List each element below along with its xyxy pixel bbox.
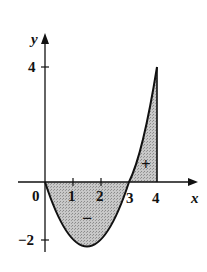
x-axis-label: x [190, 190, 199, 206]
x-tick-label-1: 1 [68, 188, 76, 204]
negative-region-sign: − [82, 208, 92, 228]
origin-label: 0 [32, 188, 40, 204]
function-graph: y x 0 1 2 3 4 4 −2 − + [0, 0, 207, 272]
x-tick-label-2: 2 [96, 188, 104, 204]
y-tick-label-neg2: −2 [18, 232, 34, 248]
positive-region-sign: + [141, 155, 151, 174]
x-tick-label-4: 4 [152, 190, 160, 206]
y-axis-label: y [29, 31, 38, 47]
y-tick-label-4: 4 [28, 59, 36, 75]
x-tick-label-3: 3 [126, 190, 134, 206]
y-axis-arrow-icon [41, 33, 49, 44]
x-axis-arrow-icon [188, 178, 198, 186]
